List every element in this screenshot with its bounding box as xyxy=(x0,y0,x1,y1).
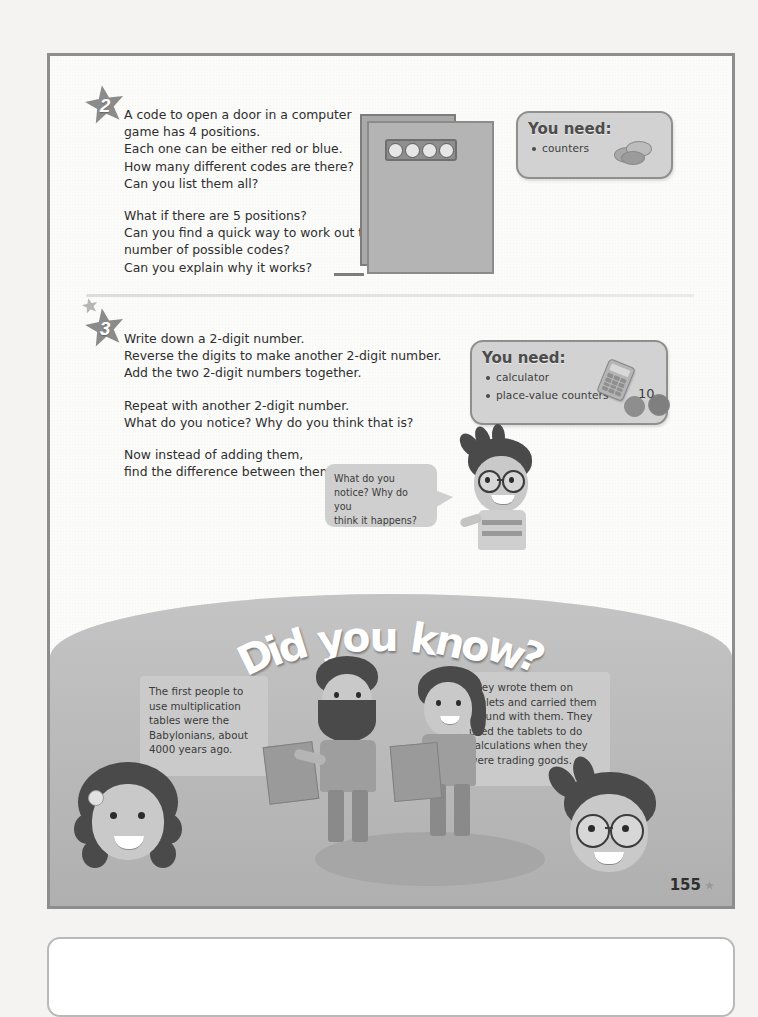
speech-bubble-activity-3: What do you notice? Why do you think it … xyxy=(325,464,437,527)
activity-2-line-8: number of possible codes? xyxy=(124,241,399,258)
activity-badge-2: 2 xyxy=(85,85,125,125)
activity-3-text: Write down a 2-digit number. Reverse the… xyxy=(124,330,454,480)
activity-2-line-7: Can you find a quick way to work out the xyxy=(124,224,399,241)
eye xyxy=(485,477,490,483)
keypad-position-4-icon xyxy=(439,143,454,158)
page-number: 155 xyxy=(670,876,714,894)
speech-bubble-line-3: think it happens? xyxy=(334,514,428,528)
door-panel xyxy=(367,121,494,274)
fact-left-line-5: 4000 years ago. xyxy=(149,742,259,757)
eye xyxy=(509,477,514,483)
activity-2-line-2: game has 4 positions. xyxy=(124,123,399,140)
paragraph-gap xyxy=(124,192,399,207)
activity-badge-3-number: 3 xyxy=(100,318,111,340)
calculator-key xyxy=(614,391,621,397)
activity-badge-3: 3 xyxy=(85,308,125,348)
eye xyxy=(334,692,339,698)
bottom-card xyxy=(47,937,735,1017)
fact-left-line-2: use multiplication xyxy=(149,699,259,714)
shirt-stripe xyxy=(482,520,522,525)
eye xyxy=(138,812,145,819)
eye xyxy=(356,692,361,698)
page-number-value: 155 xyxy=(670,876,701,894)
leg xyxy=(328,790,344,842)
activity-2-line-1: A code to open a door in a computer xyxy=(124,106,399,123)
leg xyxy=(454,784,470,836)
you-need-title-2: You need: xyxy=(482,349,656,367)
you-need-title-1: You need: xyxy=(528,120,661,138)
face xyxy=(424,682,472,736)
character-boy-glasses-corner xyxy=(548,770,678,906)
keypad-position-2-icon xyxy=(405,143,420,158)
ponytail xyxy=(470,690,486,736)
section-divider xyxy=(86,294,694,297)
leg xyxy=(352,790,368,842)
fact-panel-left: The first people to use multiplication t… xyxy=(140,676,268,776)
character-babylonian-woman xyxy=(398,666,518,878)
paragraph-gap xyxy=(124,382,454,397)
hair-clip-icon xyxy=(88,790,104,806)
activity-3-line-5: What do you notice? Why do you think tha… xyxy=(124,414,454,431)
activity-3-line-1: Write down a 2-digit number. xyxy=(124,330,454,347)
eye xyxy=(436,700,441,706)
beard xyxy=(318,700,376,742)
clay-tablet xyxy=(390,742,443,802)
eye xyxy=(622,825,629,832)
did-you-know-section: Did you know? The first people to use mu… xyxy=(50,594,732,906)
door-illustration xyxy=(360,114,480,274)
you-need-box-activity-2: You need: counters xyxy=(516,111,673,179)
character-girl-curly-hair xyxy=(68,762,198,906)
keypad-position-3-icon xyxy=(422,143,437,158)
eye xyxy=(588,825,595,832)
activity-2-line-5: Can you list them all? xyxy=(124,175,399,192)
eye xyxy=(456,700,461,706)
clay-tablet xyxy=(263,741,320,805)
door-keypad xyxy=(385,139,457,161)
activity-3-line-3: Add the two 2-digit numbers together. xyxy=(124,364,454,381)
activity-2-line-3: Each one can be either red or blue. xyxy=(124,140,399,157)
glasses-bridge xyxy=(497,479,504,481)
place-value-counter-label: 10 xyxy=(638,386,655,401)
paragraph-gap xyxy=(124,431,454,446)
activity-2-line-4: How many different codes are there? xyxy=(124,158,399,175)
activity-badge-2-number: 2 xyxy=(100,95,111,117)
calculator-keys xyxy=(601,373,626,397)
shirt-stripe xyxy=(482,531,522,536)
activity-3-line-4: Repeat with another 2-digit number. xyxy=(124,397,454,414)
activity-2-text: A code to open a door in a computer game… xyxy=(124,106,399,276)
fact-left-line-3: tables were the xyxy=(149,713,259,728)
fact-left-line-1: The first people to xyxy=(149,684,259,699)
fact-left-line-4: Babylonians, about xyxy=(149,728,259,743)
glasses-bridge xyxy=(605,827,613,829)
torso xyxy=(478,510,526,550)
activity-2-line-6: What if there are 5 positions? xyxy=(124,207,399,224)
counters-icon-3 xyxy=(621,151,645,165)
you-need-box-activity-3: You need: calculator place-value counter… xyxy=(470,340,668,425)
character-boy-with-glasses xyxy=(448,438,558,556)
activity-3-line-2: Reverse the digits to make another 2-dig… xyxy=(124,347,454,364)
speech-bubble-line-2: notice? Why do you xyxy=(334,486,428,514)
speech-bubble-line-1: What do you xyxy=(334,472,428,486)
activity-3-line-6: Now instead of adding them, xyxy=(124,446,454,463)
tunic xyxy=(320,740,376,792)
eye xyxy=(110,812,117,819)
keypad-position-1-icon xyxy=(388,143,403,158)
textbook-page: 2 A code to open a door in a computer ga… xyxy=(47,53,735,909)
page-star-icon xyxy=(705,881,714,890)
door-floor-line xyxy=(334,273,364,276)
